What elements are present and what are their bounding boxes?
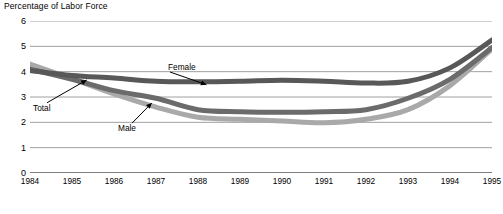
annotation-arrow-total (41, 74, 93, 109)
x-tick-1989: 1989 (231, 176, 249, 186)
x-tick-1987: 1987 (147, 176, 165, 186)
x-tick-1986: 1986 (105, 176, 123, 186)
y-tick-5: 5 (2, 41, 26, 51)
x-tick-1992: 1992 (357, 176, 375, 186)
gridlines (30, 21, 492, 173)
plot-area (30, 21, 492, 173)
x-tick-1994: 1994 (441, 176, 459, 186)
x-tick-1990: 1990 (273, 176, 291, 186)
y-tick-6: 6 (2, 16, 26, 26)
x-tick-1985: 1985 (63, 176, 81, 186)
x-tick-1984: 1984 (21, 176, 39, 186)
x-tick-1995: 1995 (483, 176, 501, 186)
annotation-arrow-male (126, 97, 158, 129)
y-tick-4: 4 (2, 67, 26, 77)
series-lines (30, 40, 492, 123)
y-axis-tick-labels: 0123456 (0, 21, 26, 173)
x-axis-tick-labels: 1984198519861987198819891990199119921993… (30, 176, 492, 190)
y-tick-1: 1 (2, 143, 26, 153)
x-tick-1991: 1991 (315, 176, 333, 186)
y-tick-2: 2 (2, 117, 26, 127)
line-chart: Percentage of Labor Force 0123456 198419… (0, 0, 503, 214)
chart-title: Percentage of Labor Force (4, 1, 108, 11)
x-tick-1988: 1988 (189, 176, 207, 186)
y-tick-3: 3 (2, 92, 26, 102)
plot-svg (30, 21, 492, 173)
annotation-arrow-female (164, 66, 212, 91)
x-tick-1993: 1993 (399, 176, 417, 186)
